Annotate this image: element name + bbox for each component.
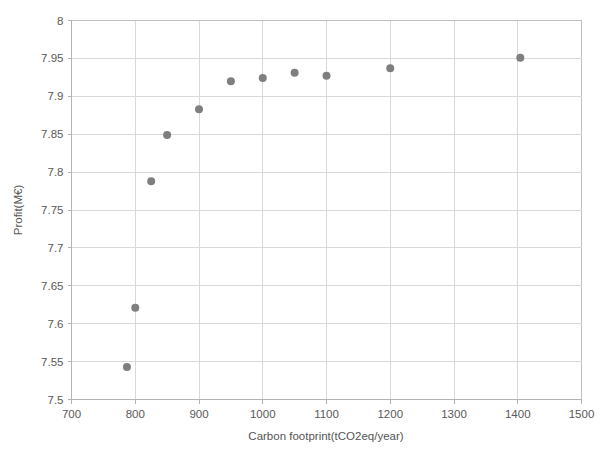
- data-point: [291, 69, 299, 77]
- x-tick-label: 700: [62, 408, 81, 420]
- x-axis-tick-labels: 700800900100011001200130014001500: [62, 408, 594, 420]
- y-tick-label: 7.75: [41, 204, 63, 216]
- x-tick-label: 1500: [569, 408, 595, 420]
- x-tick-label: 1400: [505, 408, 531, 420]
- data-point: [123, 363, 131, 371]
- y-tick-label: 7.7: [48, 242, 64, 254]
- data-point: [259, 74, 267, 82]
- data-point: [147, 177, 155, 185]
- y-tick-label: 7.55: [41, 356, 63, 368]
- data-point: [323, 72, 331, 80]
- y-tick-label: 7.8: [48, 166, 64, 178]
- data-point: [195, 105, 203, 113]
- y-tick-label: 7.95: [41, 52, 63, 64]
- y-tick-label: 7.6: [48, 318, 64, 330]
- x-tick-label: 1000: [250, 408, 276, 420]
- y-tick-label: 7.65: [41, 280, 63, 292]
- x-tick-label: 1200: [377, 408, 403, 420]
- data-point: [386, 64, 394, 72]
- chart-canvas: 7.57.557.67.657.77.757.87.857.97.958 700…: [0, 0, 607, 458]
- x-axis-title: Carbon footprint(tCO2eq/year): [248, 430, 403, 442]
- y-tick-label: 7.5: [48, 394, 64, 406]
- x-tick-label: 1300: [441, 408, 467, 420]
- data-point: [516, 54, 524, 62]
- x-tick-label: 1100: [314, 408, 339, 420]
- x-tick-label: 900: [189, 408, 208, 420]
- data-point: [163, 131, 171, 139]
- y-axis-title: Profit(M€): [12, 185, 24, 236]
- y-tick-label: 7.85: [41, 128, 63, 140]
- data-point: [131, 304, 139, 312]
- data-point: [227, 77, 235, 85]
- x-tick-label: 800: [126, 408, 145, 420]
- y-tick-label: 8: [57, 15, 63, 27]
- scatter-chart: 7.57.557.67.657.77.757.87.857.97.958 700…: [0, 0, 607, 458]
- y-tick-label: 7.9: [48, 90, 64, 102]
